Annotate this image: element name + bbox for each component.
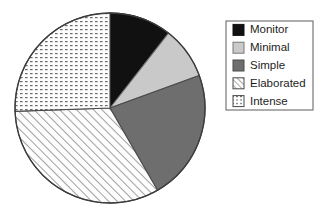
legend-label-elaborated: Elaborated [250, 77, 306, 89]
legend-entry-elaborated[interactable]: Elaborated [233, 77, 306, 89]
intense-swatch-icon [233, 96, 244, 107]
chart-legend: MonitorMinimalSimpleElaboratedIntense [226, 21, 313, 110]
pie-chart-figure: MonitorMinimalSimpleElaboratedIntense [0, 0, 325, 212]
legend-entry-simple[interactable]: Simple [233, 59, 285, 71]
minimal-swatch-icon [233, 42, 244, 53]
legend-entry-monitor[interactable]: Monitor [233, 23, 289, 35]
legend-label-simple: Simple [250, 59, 285, 71]
legend-label-intense: Intense [250, 95, 288, 107]
legend-entry-minimal[interactable]: Minimal [233, 41, 290, 53]
monitor-swatch-icon [233, 24, 244, 35]
simple-swatch-icon [233, 60, 244, 71]
elaborated-swatch-icon [233, 78, 244, 89]
legend-entry-intense[interactable]: Intense [233, 95, 288, 107]
pie-slices-group [15, 13, 205, 203]
legend-label-monitor: Monitor [250, 23, 289, 35]
pie-chart-canvas: MonitorMinimalSimpleElaboratedIntense [0, 0, 325, 212]
legend-label-minimal: Minimal [250, 41, 290, 53]
